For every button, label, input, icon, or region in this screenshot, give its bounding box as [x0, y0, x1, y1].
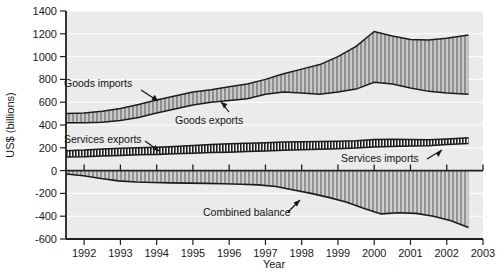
x-tick-label: 2002: [434, 247, 458, 259]
annotation-goods-imports: Goods imports: [64, 77, 132, 89]
chart-canvas: 1400120010008006004002000-200-400-600 19…: [0, 0, 504, 273]
annotation-combined-balance: Combined balance: [203, 206, 291, 218]
annotation-goods-exports: Goods exports: [175, 114, 243, 126]
x-tick-label: 1999: [326, 247, 350, 259]
y-tick-label: 600: [39, 96, 57, 108]
x-tick-label: 1994: [144, 247, 168, 259]
trade-balance-chart: 1400120010008006004002000-200-400-600 19…: [0, 0, 504, 273]
x-tick-label: 1996: [217, 247, 241, 259]
y-tick-label: -400: [35, 210, 57, 222]
y-tick-label: 400: [39, 119, 57, 131]
x-tick-label: 1992: [72, 247, 96, 259]
x-tick-label: 1993: [108, 247, 132, 259]
y-tick-label: 200: [39, 142, 57, 154]
x-axis-title: Year: [263, 258, 286, 270]
y-axis-title: US$ (billions): [4, 92, 16, 157]
annotation-services-exports: Services exports: [64, 133, 142, 145]
y-tick-label: -200: [35, 187, 57, 199]
y-tick-label: 1200: [33, 28, 57, 40]
y-tick-label: 0: [51, 165, 57, 177]
x-tick-label: 2000: [362, 247, 386, 259]
x-tick-label: 2003: [471, 247, 495, 259]
x-tick-label: 1998: [289, 247, 313, 259]
x-tick-label: 1995: [181, 247, 205, 259]
y-tick-label: 800: [39, 73, 57, 85]
y-tick-label: 1400: [33, 5, 57, 17]
y-axis-tick-labels: 1400120010008006004002000-200-400-600: [33, 5, 57, 245]
y-tick-label: 1000: [33, 51, 57, 63]
y-tick-label: -600: [35, 233, 57, 245]
x-tick-label: 2001: [398, 247, 422, 259]
annotation-services-imports: Services imports: [341, 152, 419, 164]
